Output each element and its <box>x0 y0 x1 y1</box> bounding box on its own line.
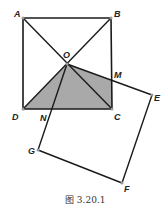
label-n: N <box>40 113 47 123</box>
figure-caption: 图 3.20.1 <box>65 195 106 205</box>
label-e: E <box>154 93 161 103</box>
label-m: M <box>114 70 122 80</box>
label-o: O <box>63 50 70 60</box>
label-f: F <box>124 184 130 194</box>
label-a: A <box>13 9 21 19</box>
label-b: B <box>114 9 121 19</box>
label-d: D <box>12 112 19 122</box>
label-g: G <box>28 146 35 156</box>
geometry-figure: A B O M E D N C G F 图 3.20.1 <box>0 0 167 209</box>
label-c: C <box>114 112 121 122</box>
